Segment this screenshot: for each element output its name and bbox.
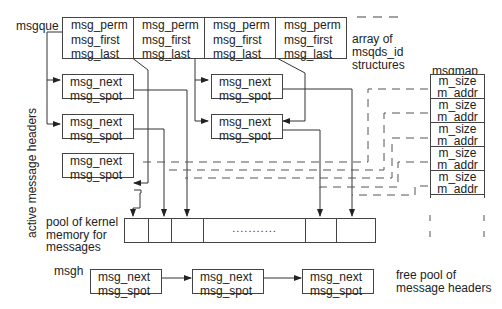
msg-last-field: msg_last: [276, 47, 346, 62]
arrow-h3-spot-to-pool1: [133, 190, 141, 216]
msg-spot-field: msg_spot: [193, 284, 263, 298]
msg-next-field: msg_next: [212, 75, 282, 89]
msg-next-field: msg_next: [63, 75, 133, 89]
msqid-entry-1[interactable]: msg_perm msg_first msg_last: [133, 17, 205, 59]
msqid-entry-3[interactable]: msg_perm msg_first msg_last: [275, 17, 347, 59]
pool-cell-6[interactable]: [336, 218, 376, 243]
dashed-map4: [320, 162, 428, 188]
msg-spot-field: msg_spot: [63, 129, 133, 143]
msg-spot-field: msg_spot: [63, 89, 133, 103]
msgmap-entry-2[interactable]: m_size m_addr: [430, 122, 485, 147]
msgque-label: msgque: [16, 19, 59, 33]
arrow-h2-spot-to-pool2: [134, 129, 164, 216]
msg-next-field: msg_next: [193, 270, 263, 284]
msg-next-field: msg_next: [63, 115, 133, 129]
pool-cell-5[interactable]: [305, 218, 337, 243]
msg-spot-field: msg_spot: [212, 129, 282, 143]
msg-spot-field: msg_spot: [63, 168, 133, 182]
pool-cell-3[interactable]: [171, 218, 204, 243]
msgmap-entry-0[interactable]: m_size m_addr: [430, 74, 485, 99]
dashed-map3: [185, 138, 428, 178]
active-header-h3[interactable]: msg_next msg_spot: [62, 153, 134, 178]
dashed-map2: [163, 113, 428, 170]
msqid-entry-2[interactable]: msg_perm msg_first msg_last: [204, 17, 276, 59]
free-header-2[interactable]: msg_next msg_spot: [192, 269, 264, 294]
msgmap-entry-3[interactable]: m_size m_addr: [430, 146, 485, 171]
msg-first-field: msg_first: [276, 33, 346, 48]
msg-perm-field: msg_perm: [205, 18, 275, 33]
pool-dots: ...........: [204, 219, 305, 237]
arrow-h4-spot-to-pool6: [283, 89, 352, 216]
msg-first-field: msg_first: [63, 33, 133, 48]
msg-last-field: msg_last: [63, 47, 133, 62]
arrow-q0-first-to-h1: [47, 32, 62, 80]
free-header-3[interactable]: msg_next msg_spot: [302, 269, 374, 294]
msg-last-field: msg_last: [134, 47, 204, 62]
msgh-label: msgh: [54, 264, 83, 278]
msg-last-field: msg_last: [205, 47, 275, 62]
msgmap-entry-1[interactable]: m_size m_addr: [430, 98, 485, 123]
free-pool-description: free pool of message headers: [396, 269, 491, 295]
msg-first-field: msg_first: [205, 33, 275, 48]
msg-spot-field: msg_spot: [212, 89, 282, 103]
msg-spot-field: msg_spot: [91, 284, 161, 298]
dashed-map1: [140, 89, 428, 165]
active-headers-label: active message headers: [25, 108, 39, 238]
msgmap-entry-4[interactable]: m_size m_addr: [430, 170, 485, 195]
msgmap-dashed-pointers: [140, 89, 428, 195]
arrow-h1-next-to-h2: [47, 80, 60, 124]
active-header-h2[interactable]: msg_next msg_spot: [62, 114, 134, 139]
pool-cell-ellipsis: ...........: [203, 218, 306, 243]
msg-perm-field: msg_perm: [276, 18, 346, 33]
arrow-h1-spot-to-pool3: [134, 90, 187, 216]
array-description: array of msqds_id structures: [352, 33, 405, 72]
msg-next-field: msg_next: [212, 115, 282, 129]
msg-next-field: msg_next: [63, 154, 133, 168]
msg-next-field: msg_next: [303, 270, 373, 284]
msg-perm-field: msg_perm: [134, 18, 204, 33]
msg-spot-field: msg_spot: [303, 284, 373, 298]
pool-cell-2[interactable]: [148, 218, 172, 243]
pool-cell-1[interactable]: [124, 218, 149, 243]
active-header-h4[interactable]: msg_next msg_spot: [211, 74, 283, 99]
msg-next-field: msg_next: [91, 270, 161, 284]
active-header-h5[interactable]: msg_next msg_spot: [211, 114, 283, 139]
msqid-entry-0[interactable]: msg_perm msg_first msg_last: [62, 17, 134, 59]
free-header-1[interactable]: msg_next msg_spot: [90, 269, 162, 294]
arrow-h5-spot-to-pool5: [283, 130, 320, 216]
arrow-h4-next-to-h5: [195, 80, 208, 121]
pool-description: pool of kernel memory for messages: [46, 216, 118, 254]
msgmap-entry-partial: [430, 194, 485, 198]
msg-first-field: msg_first: [134, 33, 204, 48]
msg-perm-field: msg_perm: [63, 18, 133, 33]
active-header-h1[interactable]: msg_next msg_spot: [62, 74, 134, 99]
